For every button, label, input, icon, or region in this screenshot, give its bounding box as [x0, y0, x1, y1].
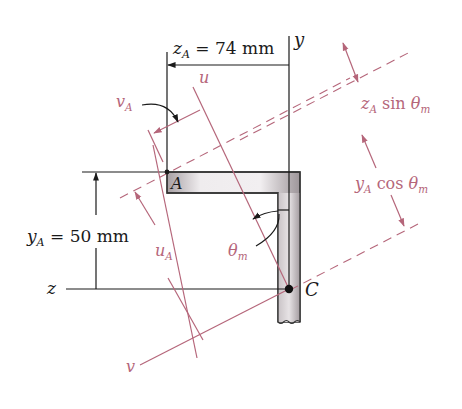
vA-var: v	[116, 92, 125, 111]
yA-var: y	[27, 226, 37, 246]
vA-dimension-arrow	[154, 110, 200, 133]
yAcos-arrow-up	[362, 135, 376, 168]
u-axis-label: u	[199, 70, 209, 86]
diagram-svg	[0, 0, 462, 409]
yAcos-theta-sub: m	[418, 183, 428, 195]
point-C-dot	[285, 285, 293, 293]
zA-sin-theta-label: zA sin θm	[361, 96, 430, 114]
yA-cos-theta-label: yA cos θm	[355, 176, 428, 194]
zAsin-dimension-arrow	[343, 43, 358, 82]
theta-sub: m	[238, 250, 248, 262]
uA-dimension-arrow-up	[135, 192, 155, 225]
z-axis-label: z	[47, 280, 56, 297]
zA-value: = 74 mm	[190, 38, 274, 58]
uA-var: u	[155, 241, 165, 260]
theta-leader	[256, 214, 279, 246]
v-axis-line	[140, 289, 289, 365]
uA-dimension-line-down	[168, 278, 203, 340]
yAcos-sub: A	[364, 183, 372, 195]
diagram-canvas: zA = 74 mm y u vA zA sin θm yA cos θm A …	[0, 0, 462, 409]
zAsin-theta-sub: m	[420, 103, 430, 115]
theta-var: θ	[228, 241, 238, 260]
yAcos-theta: θ	[409, 174, 419, 193]
uA-label: uA	[155, 243, 173, 261]
vA-leader	[142, 104, 178, 122]
zA-sub: A	[182, 48, 190, 61]
zAsin-theta: θ	[411, 94, 421, 113]
theta-m-label: θm	[228, 243, 248, 261]
vA-sub: A	[125, 101, 133, 113]
zA-dimension-label: zA = 74 mm	[173, 40, 274, 60]
yA-sub: A	[37, 236, 45, 249]
zAsin-rest: sin	[377, 94, 411, 113]
yAcos-var: y	[355, 174, 364, 193]
yAcos-rest: cos	[372, 174, 409, 193]
point-A-label: A	[171, 176, 183, 192]
yA-value: = 50 mm	[45, 226, 129, 246]
zA-var: z	[173, 38, 182, 58]
uA-sub: A	[165, 250, 173, 262]
zAsin-sub: A	[369, 103, 377, 115]
theta-arc	[253, 211, 278, 219]
yA-dimension-label: yA = 50 mm	[27, 228, 129, 248]
y-axis-label: y	[294, 31, 304, 49]
yAcos-arrow-down	[391, 195, 404, 226]
point-A-dot	[165, 170, 170, 175]
vA-label: vA	[116, 94, 133, 112]
v-axis-label: v	[126, 359, 135, 375]
point-C-label: C	[305, 281, 319, 299]
